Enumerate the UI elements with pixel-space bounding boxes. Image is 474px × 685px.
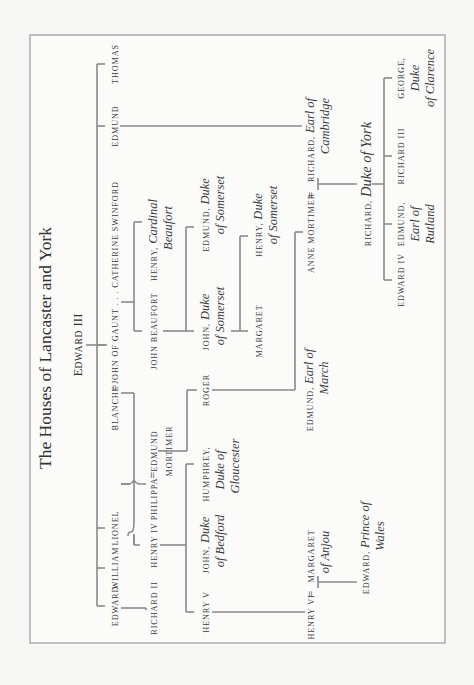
node-henry-iv: HENRY IV [150, 522, 159, 567]
node-edmund-earl-of-rutland: EDMUND,Earl ofRutland [397, 202, 437, 246]
node-margaret-beaufort: MARGARET [255, 304, 264, 357]
node-henry-vi: HENRY VI [307, 594, 316, 639]
node-philippa: PHILIPPA [150, 478, 159, 520]
node-william: WILLIAM [111, 547, 120, 590]
node-john-duke-of-somerset: JOHN,Dukeof Somerset [198, 286, 227, 350]
node-edmund-of-langley: EDMUND [111, 105, 120, 146]
diagram-title: The Houses of Lancaster and York [35, 227, 55, 469]
node-edward-iv: EDWARD IV [397, 253, 406, 307]
node-roger-mortimer: ROGER [202, 374, 211, 406]
node-john-duke-of-bedford: JOHN,Dukeof Bedford [198, 514, 227, 574]
marriage-symbol: = [108, 384, 122, 391]
marriage-symbol: = [304, 191, 318, 198]
node-anne-mortimer: ANNE MORTIMER [307, 193, 316, 273]
node-henry-v: HENRY V [202, 591, 211, 633]
node-richard-iii: RICHARD III [397, 128, 406, 185]
node-edward-black-prince: EDWARD [111, 586, 120, 626]
node-richard-ii: RICHARD II [150, 581, 159, 634]
family-tree-diagram: The Houses of Lancaster and York EDWARD … [0, 0, 474, 685]
node-thomas: THOMAS [111, 44, 120, 84]
node-lionel: LIONEL [111, 511, 120, 546]
marriage-symbol: = [304, 590, 318, 597]
node-john-beaufort: JOHN BEAUFORT [150, 292, 159, 369]
node-john-of-gaunt-catherine-swinford: JOHN OF GAUNT . . . CATHERINE SWINFORD [111, 181, 120, 384]
